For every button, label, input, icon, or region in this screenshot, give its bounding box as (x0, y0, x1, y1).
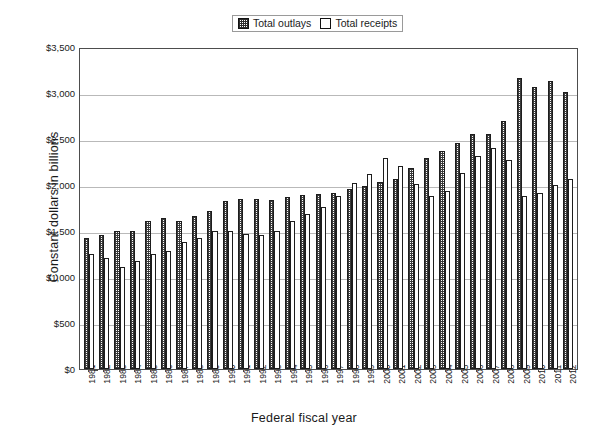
bar-total-outlays[interactable] (424, 158, 429, 369)
bar-total-receipts[interactable] (120, 267, 125, 369)
bar-total-outlays[interactable] (130, 231, 135, 369)
y-tick-label: $2,000 (21, 181, 75, 191)
bar-total-outlays[interactable] (316, 194, 321, 369)
y-tick-label: $500 (21, 319, 75, 329)
bar-total-outlays[interactable] (331, 193, 336, 369)
x-tick: 2009 (515, 372, 531, 406)
bar-total-receipts[interactable] (460, 173, 465, 369)
x-tick: 1987 (173, 372, 189, 406)
bar-total-receipts[interactable] (506, 160, 511, 369)
bar-total-receipts[interactable] (537, 193, 542, 369)
bar-total-outlays[interactable] (347, 189, 352, 369)
bar-total-outlays[interactable] (300, 195, 305, 369)
x-tick: 1986 (158, 372, 174, 406)
x-tick: 1989 (204, 372, 220, 406)
bar-total-outlays[interactable] (563, 92, 568, 369)
legend-entry-total-outlays[interactable]: Total outlays (238, 17, 311, 29)
bar-total-outlays[interactable] (145, 221, 150, 369)
bar-group (81, 49, 96, 369)
bar-total-outlays[interactable] (269, 200, 274, 369)
bar-total-receipts[interactable] (429, 196, 434, 369)
bar-total-receipts[interactable] (383, 158, 388, 369)
bar-total-receipts[interactable] (228, 231, 233, 369)
bar-group (251, 49, 266, 369)
bar-total-receipts[interactable] (135, 261, 140, 369)
x-tick: 1990 (220, 372, 236, 406)
bar-total-receipts[interactable] (166, 251, 171, 369)
y-tick-label: $1,000 (21, 273, 75, 283)
bar-total-receipts[interactable] (352, 183, 357, 369)
bar-total-receipts[interactable] (243, 234, 248, 369)
bar-group (236, 49, 251, 369)
bar-total-outlays[interactable] (517, 78, 522, 369)
bar-total-receipts[interactable] (321, 207, 326, 369)
bar-total-outlays[interactable] (285, 197, 290, 369)
bar-group (452, 49, 467, 369)
bar-total-receipts[interactable] (182, 242, 187, 369)
y-tick-label: $3,500 (21, 43, 75, 53)
bar-group (174, 49, 189, 369)
bar-total-receipts[interactable] (367, 174, 372, 369)
bar-group (530, 49, 545, 369)
bar-total-outlays[interactable] (532, 87, 537, 369)
bar-total-outlays[interactable] (455, 143, 460, 369)
bar-total-receipts[interactable] (414, 184, 419, 369)
bar-group (437, 49, 452, 369)
bar-total-receipts[interactable] (305, 214, 310, 369)
bar-total-receipts[interactable] (274, 231, 279, 369)
bar-total-receipts[interactable] (475, 156, 480, 369)
bar-total-receipts[interactable] (290, 221, 295, 369)
bar-total-receipts[interactable] (522, 196, 527, 369)
bar-total-receipts[interactable] (212, 231, 217, 369)
bar-total-outlays[interactable] (99, 235, 104, 369)
bar-total-receipts[interactable] (553, 185, 558, 369)
bar-total-outlays[interactable] (408, 168, 413, 369)
bar-total-outlays[interactable] (548, 81, 553, 369)
bar-total-outlays[interactable] (254, 199, 259, 369)
bar-total-receipts[interactable] (197, 238, 202, 369)
bar-group (561, 49, 576, 369)
bar-total-outlays[interactable] (192, 216, 197, 369)
bar-total-receipts[interactable] (568, 179, 573, 369)
bar-total-outlays[interactable] (176, 221, 181, 369)
bar-group (205, 49, 220, 369)
bar-total-outlays[interactable] (223, 201, 228, 369)
bar-group (390, 49, 405, 369)
bar-total-receipts[interactable] (445, 191, 450, 369)
x-tick: 2002 (406, 372, 422, 406)
bar-group (483, 49, 498, 369)
bar-total-outlays[interactable] (362, 186, 367, 369)
bar-total-receipts[interactable] (104, 258, 109, 369)
x-tick: 1991 (235, 372, 251, 406)
x-tick: 1995 (297, 372, 313, 406)
bar-total-outlays[interactable] (84, 238, 89, 369)
legend-label-total-receipts: Total receipts (335, 17, 397, 29)
bar-group (189, 49, 204, 369)
bar-total-outlays[interactable] (501, 121, 506, 369)
bar-total-outlays[interactable] (238, 199, 243, 369)
bar-total-outlays[interactable] (207, 211, 212, 369)
bar-group (158, 49, 173, 369)
bar-group (329, 49, 344, 369)
bar-total-outlays[interactable] (377, 182, 382, 369)
bar-total-receipts[interactable] (259, 235, 264, 369)
bar-total-receipts[interactable] (151, 254, 156, 369)
bar-total-outlays[interactable] (470, 134, 475, 369)
bar-group (344, 49, 359, 369)
bar-total-receipts[interactable] (491, 148, 496, 369)
x-tick: 1982 (96, 372, 112, 406)
legend-label-total-outlays: Total outlays (253, 17, 311, 29)
y-tick-label: $3,000 (21, 89, 75, 99)
bar-total-outlays[interactable] (393, 179, 398, 369)
bar-total-outlays[interactable] (439, 151, 444, 369)
bar-total-outlays[interactable] (161, 218, 166, 369)
bar-total-outlays[interactable] (486, 134, 491, 369)
bar-group (514, 49, 529, 369)
x-tick: 1997 (329, 372, 345, 406)
bar-total-receipts[interactable] (336, 196, 341, 369)
bar-total-receipts[interactable] (89, 254, 94, 369)
legend-entry-total-receipts[interactable]: Total receipts (320, 17, 397, 29)
bar-total-outlays[interactable] (114, 231, 119, 369)
bar-total-receipts[interactable] (398, 166, 403, 369)
bar-group (468, 49, 483, 369)
